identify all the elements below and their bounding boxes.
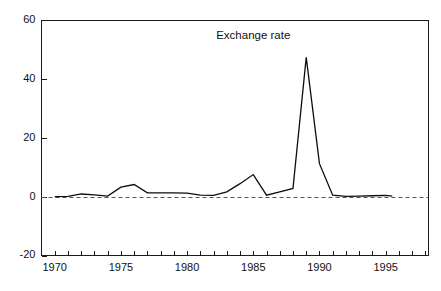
exchange-rate-line-chart: -200204060 197019751980198519901995 Exch… <box>0 0 441 291</box>
y-label-0: 0 <box>29 190 35 202</box>
x-tick-marks <box>56 251 426 256</box>
y-label-40: 40 <box>23 72 35 84</box>
y-tick-labels: -200204060 <box>20 13 36 261</box>
x-label-1970: 1970 <box>42 261 66 273</box>
y-label-60: 60 <box>23 13 35 25</box>
x-label-1990: 1990 <box>307 261 331 273</box>
chart-container: -200204060 197019751980198519901995 Exch… <box>0 0 441 291</box>
y-label-20: 20 <box>23 131 35 143</box>
x-label-1995: 1995 <box>373 261 397 273</box>
chart-axes <box>42 20 429 256</box>
x-tick-labels: 197019751980198519901995 <box>42 261 397 273</box>
x-label-1985: 1985 <box>241 261 265 273</box>
y-tick-marks <box>42 21 47 257</box>
exchange-rate-series-line <box>55 57 393 196</box>
annotation-exchange-rate: Exchange rate <box>216 29 290 41</box>
x-label-1975: 1975 <box>109 261 133 273</box>
y-label--20: -20 <box>20 248 36 260</box>
x-label-1980: 1980 <box>175 261 199 273</box>
chart-annotations: Exchange rate <box>216 29 290 41</box>
